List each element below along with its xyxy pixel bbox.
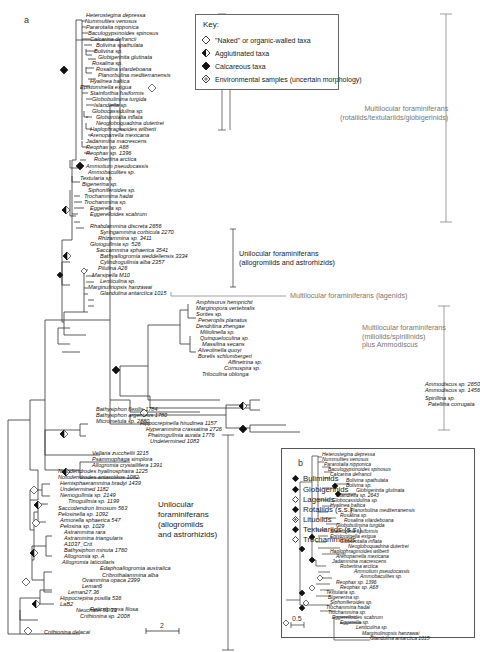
open-diamond-icon [292, 496, 299, 503]
panel-a-label: a [24, 15, 29, 25]
filled-diamond-icon [292, 475, 299, 482]
scale-bar-a-label: 2 [160, 622, 164, 629]
key-item-calcareous: Calcareous taxa [202, 62, 266, 70]
filled-diamond-icon [202, 62, 210, 70]
filled-diamond-icon [292, 506, 299, 513]
taxon-label: LaB2 [60, 601, 73, 607]
taxon-label: Glandulina antarctica 1015 [370, 635, 430, 641]
key-item-naked: "Naked" or organic-walled taxa [202, 36, 311, 44]
key-item-environmental: Environmental samples (uncertain morphol… [202, 75, 362, 83]
taxon-label: Triloculina oblonga [202, 371, 249, 377]
taxon-label: Patellina corrugata [428, 401, 475, 407]
dotted-diamond-icon [202, 75, 210, 83]
taxon-label: Eggerelloides scabrum [90, 211, 147, 217]
group-label-unilocular-bottom: Unilocular foraminiferans (allogromiids … [158, 500, 217, 540]
key-item-agglutinated: Agglutinated taxa [202, 49, 269, 57]
taxon-label: Undetermined 1083 [150, 438, 199, 444]
group-label-unilocular-top: Unilocular foraminiferans (allogromiids … [239, 250, 335, 267]
legend-lituolids: Lituolids [292, 515, 332, 524]
open-diamond-icon [202, 36, 210, 44]
taxon-label: Reticulomyxa filosa [90, 606, 138, 612]
legend-lagenids: Lagenids [292, 495, 335, 504]
taxon-label: Edaphoallogromia australica [100, 565, 171, 571]
taxon-label: Pilulina A26 [98, 265, 127, 271]
taxon-label: Crithionina delacai [44, 629, 90, 635]
taxon-label: Crithionina sp. 2008 [80, 613, 130, 619]
key-title: Key: [203, 20, 219, 29]
half-filled-diamond-icon [202, 49, 210, 57]
filled-diamond-icon [292, 526, 299, 533]
dotted-diamond-icon [292, 516, 299, 523]
taxon-label: Tinogullmia sp. 1199 [68, 498, 119, 504]
open-diamond-icon [292, 536, 299, 543]
group-label-lagenids: Multilocular foraminiferans (lagenids) [290, 292, 407, 301]
key-legend: Key: "Naked" or organic-walled taxa Aggl… [195, 14, 339, 90]
taxon-label: Ammodiscus sp. 1456 [425, 387, 480, 393]
taxon-label: Glandulina antarctica 1015 [100, 290, 167, 296]
filled-diamond-icon [292, 486, 299, 493]
group-label-rotaliids: Multilocular foraminiferans (rotaliids/t… [340, 105, 448, 122]
group-label-miliolids: Multilocular foraminiferans (miliolids/s… [362, 324, 446, 350]
taxon-label: Robertina arctica [94, 156, 136, 162]
